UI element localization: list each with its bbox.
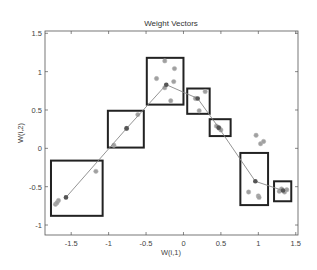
plot-area <box>45 31 298 235</box>
y-axis-label: W(i,2) <box>16 123 25 143</box>
weight-vectors-chart: Weight Vectors -1.5-1-0.500.511.5 -1-0.5… <box>0 0 317 270</box>
input-point <box>261 139 265 143</box>
x-tick-label: 0.5 <box>216 239 226 248</box>
x-tick-label: 1.5 <box>291 239 301 248</box>
input-point <box>197 109 201 113</box>
y-tick-label: -0.5 <box>29 183 42 192</box>
x-tick-label: -0.5 <box>140 239 153 248</box>
cluster-box <box>147 58 184 105</box>
y-tick-label: -1 <box>35 221 42 230</box>
input-point <box>154 76 158 80</box>
input-point <box>203 89 207 93</box>
cluster-box <box>51 161 103 216</box>
input-point <box>55 201 59 205</box>
input-point <box>94 169 98 173</box>
weight-point <box>124 126 129 131</box>
chart-title: Weight Vectors <box>144 19 198 28</box>
input-point <box>163 59 167 63</box>
input-point <box>172 79 176 83</box>
x-tick-label: -1.5 <box>65 239 78 248</box>
x-tick-label: 0 <box>181 239 185 248</box>
weight-line <box>66 85 283 198</box>
input-point <box>246 190 250 194</box>
input-point <box>254 133 258 137</box>
input-point <box>169 99 173 103</box>
input-point <box>257 195 261 199</box>
y-tick-label: 1.5 <box>32 29 42 38</box>
weight-point <box>281 188 286 193</box>
weight-point <box>216 125 221 130</box>
x-tick-label: -1 <box>105 239 112 248</box>
x-tick-label: 1 <box>256 239 260 248</box>
y-tick-label: 1 <box>38 68 42 77</box>
y-tick-label: 0 <box>38 144 42 153</box>
y-tick-label: 0.5 <box>32 106 42 115</box>
input-point <box>285 188 289 192</box>
x-axis-label: W(i,1) <box>161 248 181 257</box>
weight-point <box>64 195 69 200</box>
input-point <box>172 66 176 70</box>
weight-point <box>195 96 200 101</box>
weight-point <box>164 82 169 87</box>
weight-point <box>253 179 258 184</box>
